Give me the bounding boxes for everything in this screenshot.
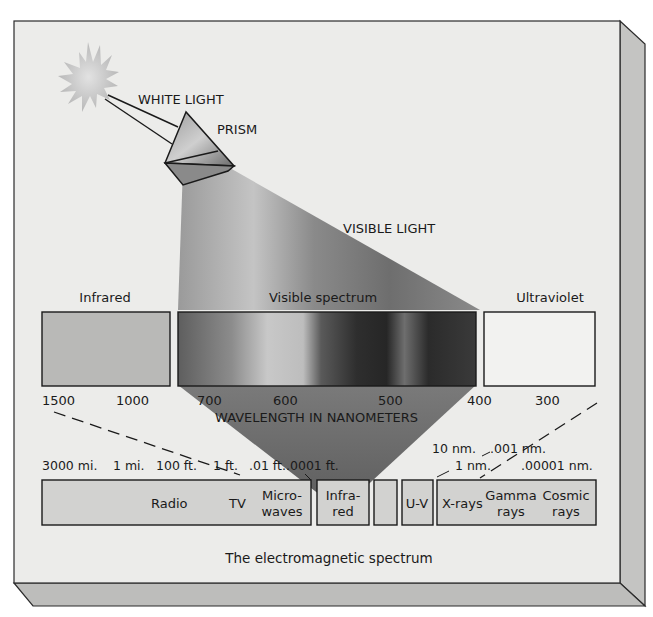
panel-side — [620, 21, 645, 606]
scale-00001nm: .00001 nm. — [521, 458, 593, 473]
scale-01ft: .01 ft. — [249, 458, 286, 473]
tv-label: TV — [228, 496, 246, 511]
tick-1000: 1000 — [116, 393, 149, 408]
microwaves-label-2: waves — [261, 504, 302, 519]
infrared-heading: Infrared — [79, 290, 130, 305]
infrared-box — [42, 312, 170, 386]
band-visible — [374, 480, 397, 525]
ultraviolet-box — [484, 312, 595, 386]
visible-spectrum-box — [178, 312, 476, 386]
scale-001nm: .001 nm. — [490, 441, 546, 456]
tick-500: 500 — [378, 393, 403, 408]
tick-600: 600 — [273, 393, 298, 408]
xrays-label: X-rays — [442, 496, 483, 511]
scale-0001ft: .0001 ft. — [286, 458, 339, 473]
wavelength-axis-label: WAVELENGTH IN NANOMETERS — [215, 410, 418, 425]
ultraviolet-heading: Ultraviolet — [516, 290, 584, 305]
cosmic-label-1: Cosmic — [542, 488, 589, 503]
microwaves-label-1: Micro- — [262, 488, 302, 503]
scale-1nm: 1 nm. — [455, 458, 491, 473]
electromagnetic-spectrum-diagram: WHITE LIGHT PRISM VISIBLE LIGHT Infrared… — [0, 0, 653, 617]
scale-1ft: 1 ft. — [213, 458, 238, 473]
prism-label: PRISM — [217, 122, 257, 137]
visible-light-label: VISIBLE LIGHT — [343, 221, 435, 236]
visible-spectrum-heading: Visible spectrum — [269, 290, 377, 305]
tick-1500: 1500 — [42, 393, 75, 408]
scale-1mi: 1 mi. — [113, 458, 145, 473]
uv-band-label: U-V — [406, 496, 428, 511]
gamma-label-2: rays — [497, 504, 525, 519]
infrared-band-label-1: Infra- — [326, 488, 361, 503]
radio-label: Radio — [151, 496, 188, 511]
white-light-label: WHITE LIGHT — [138, 92, 224, 107]
infrared-band-label-2: red — [332, 504, 353, 519]
tick-400: 400 — [467, 393, 492, 408]
panel-bottom — [14, 583, 645, 606]
tick-700: 700 — [197, 393, 222, 408]
tick-300: 300 — [535, 393, 560, 408]
diagram-caption: The electromagnetic spectrum — [224, 550, 432, 566]
scale-3000mi: 3000 mi. — [42, 458, 97, 473]
gamma-label-1: Gamma — [485, 488, 536, 503]
scale-100ft: 100 ft. — [156, 458, 197, 473]
cosmic-label-2: rays — [552, 504, 580, 519]
scale-10nm: 10 nm. — [432, 441, 476, 456]
